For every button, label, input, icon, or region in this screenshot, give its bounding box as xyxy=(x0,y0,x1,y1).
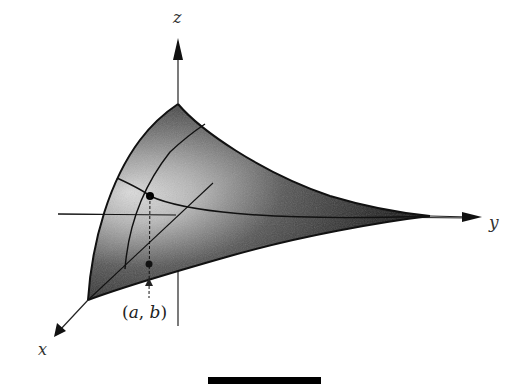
x-axis-line xyxy=(60,300,88,330)
y-axis-arrow-icon xyxy=(462,212,482,222)
domain-point xyxy=(146,261,153,268)
surface xyxy=(88,104,430,300)
point-ab-label: (a, b) xyxy=(122,302,167,322)
x-axis-label: x xyxy=(38,340,47,359)
z-axis-label: z xyxy=(172,8,182,27)
caption-redaction-bar xyxy=(208,377,321,384)
z-axis-arrow-icon xyxy=(173,38,183,60)
surface-diagram: z y x (a, b) xyxy=(0,0,525,384)
y-axis-label: y xyxy=(488,212,499,232)
